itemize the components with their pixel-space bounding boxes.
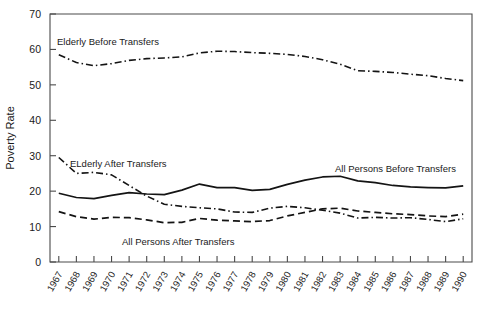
x-axis-tick-marks xyxy=(59,256,463,262)
y-axis-tick-label: 70 xyxy=(29,8,41,20)
series-line xyxy=(59,51,463,80)
y-axis-tick-label: 50 xyxy=(29,79,41,91)
series-annotation-label: ELderly After Transfers xyxy=(70,158,167,169)
y-axis-tick-label: 60 xyxy=(29,43,41,55)
x-axis-tick-label: 1973 xyxy=(150,270,170,294)
x-axis-tick-label: 1982 xyxy=(308,270,328,294)
x-axis-tick-label: 1974 xyxy=(168,270,188,294)
x-axis-tick-label: 1977 xyxy=(220,270,240,294)
x-axis-tick-label: 1983 xyxy=(326,270,346,294)
x-axis-tick-label: 1968 xyxy=(62,270,82,294)
x-axis-tick-label: 1989 xyxy=(431,270,451,294)
series-annotation-label: Elderly Before Transfers xyxy=(57,36,159,47)
y-axis-tick-label: 20 xyxy=(29,185,41,197)
x-axis-tick-labels: 1967196819691970197119721973197419751976… xyxy=(44,270,469,294)
x-axis-tick-label: 1971 xyxy=(115,270,135,294)
plot-frame xyxy=(50,14,472,262)
y-axis-tick-label: 10 xyxy=(29,221,41,233)
y-axis-title-group: Poverty Rate xyxy=(4,106,16,170)
x-axis-tick-label: 1981 xyxy=(291,270,311,294)
x-axis-tick-label: 1979 xyxy=(255,270,275,294)
x-axis-tick-label: 1990 xyxy=(449,270,469,294)
poverty-rate-line-chart: Poverty Rate 010203040506070 19671968196… xyxy=(0,0,485,309)
y-axis-title: Poverty Rate xyxy=(4,106,16,170)
series-annotation-label: All Persons After Transfers xyxy=(122,236,235,247)
x-axis-tick-label: 1969 xyxy=(80,270,100,294)
x-axis-tick-label: 1984 xyxy=(343,270,363,294)
series-annotation-label: All Persons Before Transfers xyxy=(335,163,456,174)
x-axis-tick-label: 1978 xyxy=(238,270,258,294)
x-axis-tick-label: 1988 xyxy=(414,270,434,294)
x-axis-tick-label: 1986 xyxy=(379,270,399,294)
y-axis-tick-labels: 010203040506070 xyxy=(29,8,41,268)
chart-canvas: Poverty Rate 010203040506070 19671968196… xyxy=(0,0,485,309)
x-axis-tick-label: 1975 xyxy=(185,270,205,294)
data-series-group xyxy=(59,51,463,222)
series-inline-labels: Elderly Before TransfersELderly After Tr… xyxy=(57,36,456,247)
series-line xyxy=(59,208,463,223)
x-axis-tick-label: 1987 xyxy=(396,270,416,294)
x-axis-tick-label: 1976 xyxy=(203,270,223,294)
y-axis-tick-label: 0 xyxy=(35,256,41,268)
y-axis-tick-label: 40 xyxy=(29,114,41,126)
x-axis-tick-label: 1967 xyxy=(44,270,64,294)
x-axis-tick-label: 1985 xyxy=(361,270,381,294)
x-axis-tick-label: 1972 xyxy=(132,270,152,294)
y-axis-tick-label: 30 xyxy=(29,150,41,162)
y-axis-tick-marks xyxy=(50,14,56,262)
plot-border xyxy=(50,14,472,262)
x-axis-tick-label: 1970 xyxy=(97,270,117,294)
x-axis-tick-label: 1980 xyxy=(273,270,293,294)
